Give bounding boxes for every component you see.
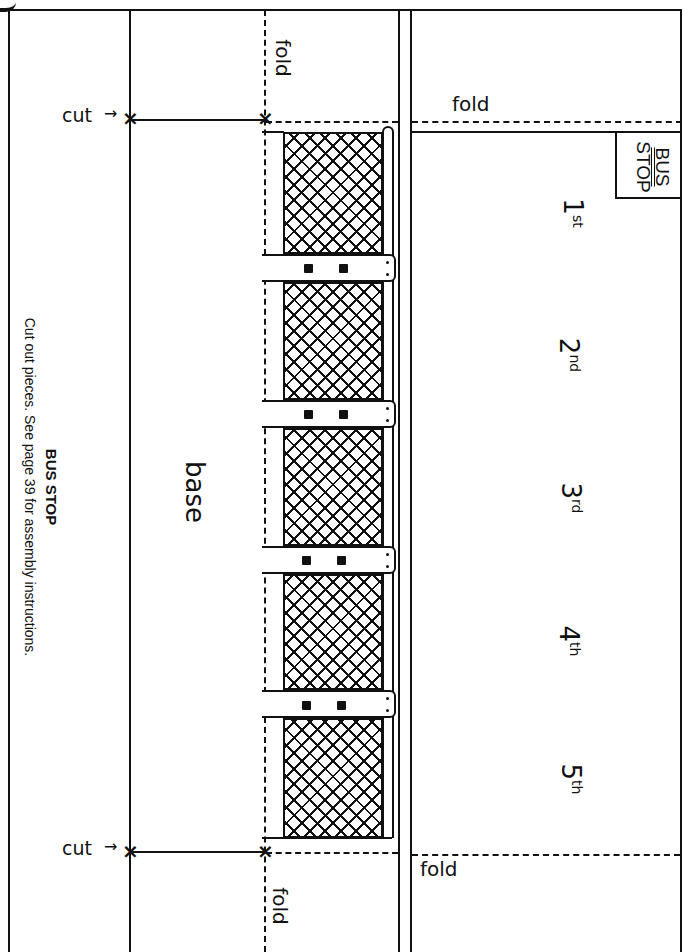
pin-icon bbox=[386, 709, 389, 712]
arrow-right-icon: → bbox=[104, 104, 117, 123]
side-strip bbox=[382, 126, 394, 838]
bracket-3 bbox=[262, 546, 396, 574]
mesh-panel-5 bbox=[283, 718, 383, 838]
floor-label-1: 1st bbox=[558, 198, 588, 227]
divider-line-right bbox=[410, 10, 412, 952]
cross-mark-icon: × bbox=[122, 108, 139, 128]
page-title: BUS STOP bbox=[41, 277, 61, 697]
mesh-panel-3 bbox=[283, 428, 383, 546]
cut-label-top: cut bbox=[62, 104, 92, 126]
cut-column-line bbox=[129, 10, 131, 952]
fold-label-bottom-horizontal: fold bbox=[420, 857, 458, 881]
bracket-1 bbox=[262, 254, 396, 282]
pin-icon bbox=[386, 697, 389, 700]
floor-label-3: 3rd bbox=[556, 483, 586, 514]
bus-stop-sign: BUS STOP bbox=[615, 131, 682, 199]
bolt-icon bbox=[304, 264, 313, 273]
cut-line-top bbox=[130, 119, 265, 121]
instructions-text: Cut out pieces. See page 39 for assembly… bbox=[19, 277, 41, 697]
fold-label-top-horizontal: fold bbox=[452, 92, 490, 116]
sign-line-1: BUS bbox=[653, 132, 672, 202]
fold-label-bottom-vertical: fold bbox=[268, 881, 292, 931]
bracket-4 bbox=[262, 690, 396, 718]
bolt-icon bbox=[339, 410, 348, 419]
floor-label-4: 4th bbox=[554, 626, 584, 657]
bolt-icon bbox=[339, 264, 348, 273]
floor-label-2: 2nd bbox=[554, 338, 584, 372]
fold-line-bottom-left bbox=[266, 852, 398, 854]
pin-icon bbox=[386, 261, 389, 264]
bolt-icon bbox=[304, 410, 313, 419]
fold-line-top-left bbox=[266, 121, 398, 123]
base-label: base bbox=[180, 461, 210, 521]
pin-icon bbox=[386, 553, 389, 556]
mesh-panel-4 bbox=[283, 574, 383, 690]
pin-icon bbox=[386, 565, 389, 568]
bolt-icon bbox=[337, 701, 346, 710]
cut-line-bottom bbox=[130, 851, 265, 853]
mesh-panel-2 bbox=[283, 282, 383, 400]
left-strip-edge bbox=[262, 131, 284, 133]
instructions-block: BUS STOP Cut out pieces. See page 39 for… bbox=[7, 277, 61, 697]
fold-line-bottom-right bbox=[412, 854, 680, 856]
floor-label-5: 5th bbox=[556, 764, 586, 795]
cross-mark-icon: × bbox=[257, 108, 274, 128]
pin-icon bbox=[386, 273, 389, 276]
arrow-right-icon: → bbox=[104, 837, 117, 856]
fold-line-top-right bbox=[412, 121, 682, 123]
sign-line-2: STOP bbox=[634, 132, 653, 202]
pin-icon bbox=[386, 419, 389, 422]
sign-text-block: BUS STOP bbox=[628, 132, 672, 202]
divider-line-left bbox=[398, 10, 400, 952]
bracket-2 bbox=[262, 400, 396, 428]
bolt-icon bbox=[302, 701, 311, 710]
mesh-panel-1 bbox=[283, 132, 383, 254]
cut-label-bottom: cut bbox=[62, 837, 92, 859]
pin-icon bbox=[386, 407, 389, 410]
bolt-icon bbox=[337, 556, 346, 565]
cross-mark-icon: × bbox=[257, 841, 274, 861]
fold-column-line bbox=[264, 10, 266, 952]
fold-label-top-vertical: fold bbox=[271, 33, 295, 83]
bolt-icon bbox=[302, 556, 311, 565]
cross-mark-icon: × bbox=[122, 841, 139, 861]
